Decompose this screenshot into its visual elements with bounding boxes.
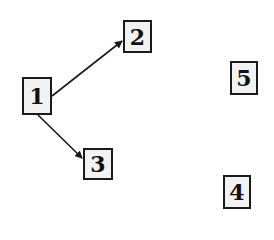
- edge-1-to-2: [52, 41, 122, 96]
- node-2-label: 2: [130, 24, 145, 50]
- node-1-label: 1: [29, 83, 44, 109]
- node-4-label: 4: [229, 179, 244, 205]
- node-3[interactable]: 3: [83, 148, 113, 180]
- node-4[interactable]: 4: [223, 175, 251, 209]
- node-1[interactable]: 1: [22, 77, 52, 115]
- node-5-label: 5: [236, 65, 251, 91]
- node-3-label: 3: [90, 151, 105, 177]
- edge-1-to-3: [38, 115, 82, 158]
- node-5[interactable]: 5: [230, 61, 258, 95]
- node-2[interactable]: 2: [123, 20, 152, 53]
